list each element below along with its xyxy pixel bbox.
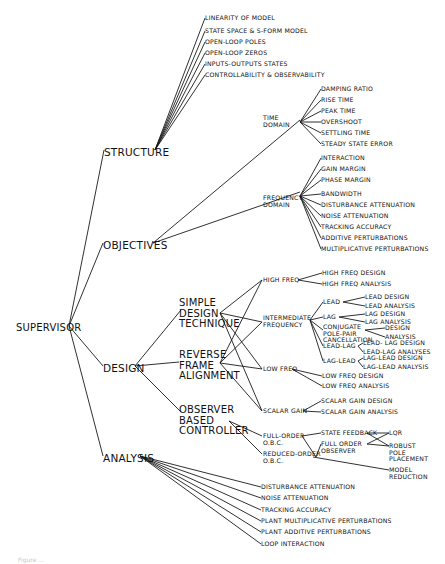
node-a3: TRACKING ACCURACY	[261, 507, 331, 514]
node-lf: LOW FREQ	[263, 366, 297, 373]
node-f6: NOISE ATTENUATION	[321, 213, 389, 220]
node-a2: NOISE ATTENUATION	[261, 495, 329, 502]
node-f2: GAIN MARGIN	[321, 166, 366, 173]
tree-edge	[298, 280, 322, 284]
node-lfa: LOW FREQ ANALYSIS	[322, 383, 389, 390]
supervisor-tree-diagram: SUPERVISORSTRUCTUREOBJECTIVESDESIGNANALY…	[0, 0, 445, 564]
tree-edge	[155, 53, 205, 150]
tree-edge	[69, 150, 104, 326]
node-sg: SCALAR GAIN	[263, 408, 307, 415]
node-ld: LEAD DESIGN	[365, 294, 409, 301]
node-sga: SCALAR GAIN ANALYSIS	[321, 409, 398, 416]
node-t1: DAMPING RATIO	[321, 86, 373, 93]
tree-edge	[155, 64, 205, 150]
node-t5: SETTLING TIME	[321, 130, 370, 137]
node-la: LEAD ANALYSIS	[365, 303, 415, 310]
node-gla: LAG-LEAD ANALYSIS	[363, 364, 429, 371]
tree-edge	[155, 31, 205, 150]
tree-edge	[69, 243, 103, 326]
node-f9: MULTIPLICATIVE PERTURBATIONS	[321, 246, 429, 253]
node-lfd: LOW FREQ DESIGN	[322, 373, 384, 380]
tree-edge	[302, 433, 321, 436]
node-hfa: HIGH FREQ ANALYSIS	[322, 281, 391, 288]
node-leadlag: LEAD-LAG	[323, 343, 356, 350]
tree-edge	[135, 310, 181, 366]
node-analysis: ANALYSIS	[103, 453, 154, 464]
node-gld: LAG-LEAD DESIGN	[363, 355, 423, 362]
tree-edge	[140, 456, 261, 544]
node-objectives: OBJECTIVES	[103, 240, 168, 251]
tree-edge	[339, 314, 365, 317]
node-f5: DISTURBANCE ATTENUATION	[321, 202, 415, 209]
tree-edge	[300, 194, 321, 196]
node-t6: STEADY STATE ERROR	[321, 141, 393, 148]
node-s5: INPUTS-OUTPUTS STATES	[205, 61, 288, 68]
node-rfa: REVERSE FRAME ALIGNMENT	[179, 350, 240, 382]
tree-edge	[140, 456, 261, 487]
node-f8: ADDITIVE PERTURBATIONS	[321, 235, 408, 242]
node-a1: DISTURBANCE ATTENUATION	[261, 484, 355, 491]
node-hfd: HIGH FREQ DESIGN	[322, 270, 386, 277]
node-f7: TRACKING ACCURACY	[321, 224, 391, 231]
node-s2: STATE SPACE & S-FORM MODEL	[205, 28, 308, 35]
node-sdt: SIMPLE DESIGN TECHNIQUE	[179, 298, 240, 330]
tree-edge	[300, 196, 321, 216]
node-s6: CONTROLLABILITY & OBSERVABILITY	[205, 72, 325, 79]
tree-edge	[298, 273, 322, 280]
node-rpp: ROBUST POLE PLACEMENT	[389, 443, 428, 463]
node-time: TIME DOMAIN	[263, 115, 290, 128]
tree-edge	[339, 317, 365, 322]
node-s1: LINEARITY OF MODEL	[205, 15, 275, 22]
tree-edge	[300, 122, 321, 133]
node-foo: FULL ORDER OBSERVER	[321, 441, 362, 454]
tree-edge	[140, 456, 261, 498]
tree-edge	[153, 120, 300, 243]
node-s3: OPEN-LOOP POLES	[205, 39, 266, 46]
tree-edge	[343, 297, 365, 302]
node-lld: LEAD- LAG DESIGN	[363, 340, 425, 347]
tree-edge	[313, 457, 389, 470]
node-f1: INTERACTION	[321, 155, 365, 162]
node-mr: MODEL REDUCTION	[389, 467, 428, 480]
node-obc: OBSERVER BASED CONTROLLER	[179, 405, 249, 437]
tree-edge	[300, 122, 321, 144]
node-s4: OPEN-LOOP ZEROS	[205, 50, 267, 57]
tree-edge	[343, 302, 365, 306]
node-lqr: LQR	[389, 430, 402, 437]
tree-edge	[155, 18, 205, 150]
node-a4: PLANT MULTIPLICATIVE PERTURBATIONS	[261, 518, 392, 525]
tree-edge	[300, 196, 321, 238]
node-sf: STATE FEEDBACK	[321, 430, 377, 437]
node-t4: OVERSHOOT	[321, 119, 362, 126]
node-cpd: DESIGN	[385, 325, 410, 332]
tree-edge	[140, 456, 261, 521]
node-lead: LEAD	[323, 299, 340, 306]
node-imf: INTERMEDIATE FREQUENCY	[263, 315, 311, 328]
node-f4: BANDWIDTH	[321, 191, 362, 198]
node-lag: LAG	[323, 314, 336, 321]
node-a6: LOOP INTERACTION	[261, 541, 325, 548]
tree-edge	[310, 320, 323, 346]
node-lgd: LAG DESIGN	[365, 311, 405, 318]
node-fo: FULL-ORDER O.B.C.	[263, 433, 304, 446]
node-a5: PLANT ADDITIVE PERTURBATIONS	[261, 529, 371, 536]
node-supervisor: SUPERVISOR	[16, 323, 81, 334]
node-ro: REDUCED-ORDER O.B.C.	[263, 451, 321, 464]
tree-edge	[155, 42, 205, 150]
tree-edge	[300, 158, 321, 196]
node-structure: STRUCTURE	[104, 147, 169, 158]
tree-edge	[140, 456, 261, 510]
tree-edge	[310, 320, 323, 361]
node-t3: PEAK TIME	[321, 108, 356, 115]
node-t2: RISE TIME	[321, 97, 354, 104]
node-f3: PHASE MARGIN	[321, 177, 371, 184]
tree-edge	[300, 100, 321, 122]
figure-caption: Figure ...	[18, 556, 44, 563]
node-freq: FREQUENCY DOMAIN	[263, 195, 303, 208]
tree-edge	[300, 89, 321, 122]
tree-edge	[155, 75, 205, 150]
node-sgd: SCALAR GAIN DESIGN	[321, 398, 392, 405]
node-laglead: LAG-LEAD	[323, 358, 356, 365]
node-design: DESIGN	[103, 363, 145, 374]
node-hf: HIGH FREQ	[263, 277, 299, 284]
